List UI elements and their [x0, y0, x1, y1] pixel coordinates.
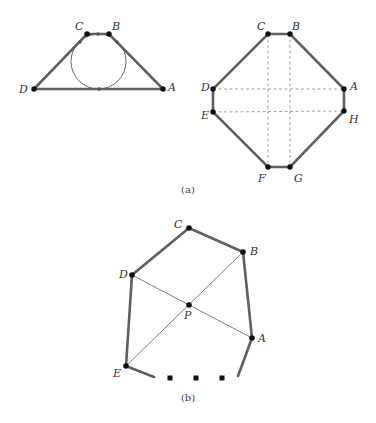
- caption-b: (b): [181, 392, 195, 403]
- label-g: G: [294, 172, 303, 185]
- tangent-point-right: [115, 40, 119, 44]
- vertex-a: [341, 86, 346, 91]
- vertex-c: [186, 225, 192, 231]
- label-d: D: [18, 83, 28, 96]
- label-a: A: [167, 81, 176, 94]
- label-b: B: [249, 245, 258, 258]
- label-d: D: [118, 268, 128, 281]
- label-h: H: [348, 113, 359, 126]
- label-e: E: [200, 109, 209, 122]
- vertex-d: [210, 86, 215, 91]
- geometry-figure: C B A D C B A H G F E D (a): [0, 0, 376, 423]
- octagon-outline: [213, 34, 344, 167]
- label-d: D: [200, 81, 210, 94]
- label-p: P: [183, 309, 192, 322]
- octagon-figure: C B A H G F E D: [200, 20, 359, 185]
- label-c: C: [174, 218, 183, 231]
- diagonal-da: [132, 275, 252, 338]
- trapezoid-figure: C B A D: [18, 20, 176, 96]
- vertex-d: [129, 272, 135, 278]
- trapezoid-outline: [34, 34, 163, 89]
- label-c: C: [257, 20, 266, 33]
- ellipsis-dot-1: [168, 376, 173, 381]
- label-a: A: [349, 80, 358, 93]
- vertex-d: [31, 86, 36, 91]
- label-b: B: [111, 20, 120, 33]
- vertex-e: [210, 109, 215, 114]
- edge-stub-a: [238, 338, 252, 376]
- vertex-a: [249, 335, 255, 341]
- polygon-b-figure: C B A D E P: [112, 218, 266, 381]
- label-f: F: [257, 172, 266, 185]
- label-e: E: [112, 367, 121, 380]
- vertex-b: [240, 249, 246, 255]
- ellipsis-dot-2: [194, 376, 199, 381]
- label-a: A: [257, 332, 266, 345]
- tangent-point-left: [78, 40, 82, 44]
- vertex-h: [341, 108, 346, 113]
- polygon-edges: [126, 228, 252, 366]
- edge-stub-e: [126, 366, 154, 377]
- vertex-g: [287, 164, 292, 169]
- vertex-e: [123, 363, 129, 369]
- vertex-c: [84, 31, 89, 36]
- ellipsis-dot-3: [220, 376, 225, 381]
- tangent-point-top: [96, 32, 100, 36]
- caption-a: (a): [181, 184, 195, 195]
- intersection-p: [186, 302, 192, 308]
- label-b: B: [291, 20, 300, 33]
- vertex-f: [265, 164, 270, 169]
- vertex-a: [160, 86, 165, 91]
- vertex-b: [106, 31, 111, 36]
- dashed-line-eh: [213, 111, 344, 112]
- vertex-c: [265, 31, 270, 36]
- tangent-point-bottom: [97, 87, 101, 91]
- label-c: C: [75, 20, 84, 33]
